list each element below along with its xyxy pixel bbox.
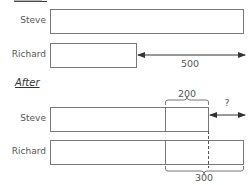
brace-300 xyxy=(166,166,244,174)
after-steve-bar xyxy=(51,108,209,132)
before-steve-bar xyxy=(51,10,244,34)
after-richard-bar xyxy=(51,141,244,165)
before-richard-bar xyxy=(51,44,137,68)
brace-200 xyxy=(166,97,209,105)
bar-model-diagram xyxy=(0,0,252,185)
